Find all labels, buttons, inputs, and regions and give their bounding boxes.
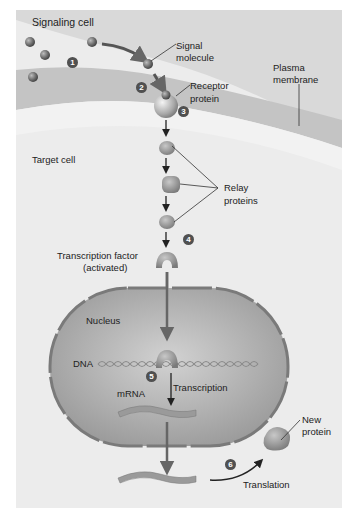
label-new-protein-line1: New	[302, 414, 321, 425]
signaling-diagram: Signaling cell Signal molecule Plasma me…	[0, 0, 352, 518]
signal-molecule	[28, 72, 38, 82]
label-plasma-membrane-line2: membrane	[273, 74, 318, 85]
step-badge-3: 3	[178, 106, 189, 117]
relay-protein-3	[159, 215, 175, 229]
step-badge-2: 2	[136, 82, 147, 93]
label-dna: DNA	[73, 358, 93, 369]
label-translation: Translation	[243, 479, 290, 490]
label-new-protein-line2: protein	[302, 426, 331, 437]
label-nucleus: Nucleus	[86, 315, 120, 326]
label-receptor-protein-line1: Receptor	[190, 80, 229, 91]
label-relay-proteins-line2: proteins	[224, 195, 258, 206]
label-signal-molecule-line2: molecule	[176, 52, 214, 63]
label-target-cell: Target cell	[32, 154, 75, 165]
label-plasma-membrane-line1: Plasma	[273, 62, 305, 73]
label-signal-molecule-line1: Signal	[176, 40, 202, 51]
step-badge-1: 1	[67, 57, 78, 68]
label-mrna: mRNA	[117, 388, 145, 399]
signal-molecule	[87, 37, 97, 47]
step-badge-6: 6	[225, 459, 236, 470]
label-transcription-factor-line1: Transcription factor	[57, 250, 138, 261]
label-transcription: Transcription	[173, 382, 228, 393]
signal-molecule	[40, 50, 50, 60]
label-relay-proteins-line1: Relay	[224, 182, 248, 193]
label-transcription-factor-line2: (activated)	[83, 262, 127, 273]
relay-protein-2	[162, 176, 180, 193]
relay-protein-1	[159, 141, 175, 155]
step-badge-4: 4	[183, 234, 194, 245]
step-badge-5: 5	[146, 371, 157, 382]
label-signaling-cell: Signaling cell	[32, 17, 94, 28]
label-receptor-protein-line2: protein	[190, 93, 219, 104]
signal-molecule	[25, 37, 35, 47]
